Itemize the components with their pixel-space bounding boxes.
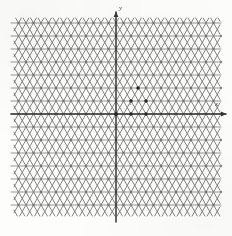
lattice-vertex xyxy=(190,35,192,37)
lattice-vertex xyxy=(182,48,184,50)
lattice-vertex xyxy=(137,100,139,102)
lattice-vertex xyxy=(107,100,109,102)
lattice-vertex xyxy=(70,87,72,89)
lattice-vertex xyxy=(17,126,19,128)
lattice-vertex xyxy=(152,22,154,24)
lattice-vertex xyxy=(17,152,19,154)
lattice-vertex xyxy=(85,165,87,167)
lattice-vertex xyxy=(17,204,19,206)
lattice-vertex xyxy=(137,22,139,24)
lattice-vertex xyxy=(40,165,42,167)
lattice-vertex xyxy=(85,61,87,63)
lattice-vertex xyxy=(62,126,64,128)
lattice-vertex xyxy=(137,48,139,50)
lattice-vertex xyxy=(137,74,139,76)
lattice-vertex xyxy=(32,100,34,102)
lattice-vertex xyxy=(17,74,19,76)
lattice-vertex xyxy=(197,152,199,154)
lattice-vertex xyxy=(55,165,57,167)
lattice-vertex xyxy=(100,191,102,193)
lattice-vertex xyxy=(205,87,207,89)
lattice-vertex xyxy=(190,87,192,89)
lattice-vertex xyxy=(70,191,72,193)
lattice-vertex xyxy=(47,100,49,102)
lattice-vertex xyxy=(122,74,124,76)
lattice-vertex xyxy=(167,152,169,154)
lattice-vertex xyxy=(182,178,184,180)
lattice-vertex xyxy=(85,191,87,193)
lattice-vertex xyxy=(47,22,49,24)
lattice-vertex xyxy=(182,204,184,206)
lattice-vertex xyxy=(62,178,64,180)
lattice-vertex xyxy=(100,61,102,63)
lattice-vertex xyxy=(32,48,34,50)
lattice-vertex xyxy=(55,191,57,193)
lattice-vertex xyxy=(77,178,79,180)
lattice-vertex xyxy=(167,22,169,24)
lattice-vertex xyxy=(212,204,214,206)
lattice-vertex xyxy=(122,204,124,206)
origin-point xyxy=(114,112,118,116)
lattice-vertex xyxy=(152,152,154,154)
lattice-vertex xyxy=(212,126,214,128)
lattice-vertex xyxy=(152,204,154,206)
lattice-vertex xyxy=(62,100,64,102)
lattice-vertex xyxy=(190,191,192,193)
lattice-vertex xyxy=(137,152,139,154)
lattice-vertex xyxy=(40,35,42,37)
lattice-vertex xyxy=(100,35,102,37)
lattice-vertex xyxy=(40,61,42,63)
lattice-vertex xyxy=(62,152,64,154)
lattice-vertex xyxy=(220,35,222,37)
lattice-vertex xyxy=(152,126,154,128)
lattice-vertex xyxy=(122,22,124,24)
lattice-vertex xyxy=(182,152,184,154)
lattice-vertex xyxy=(167,74,169,76)
lattice-vertex xyxy=(100,165,102,167)
lattice-vertex xyxy=(25,61,27,63)
lattice-vertex xyxy=(137,178,139,180)
lattice-vertex xyxy=(130,165,132,167)
lattice-vertex xyxy=(145,87,147,89)
lattice-vertex xyxy=(167,204,169,206)
lattice-vertex xyxy=(220,61,222,63)
lattice-vertex xyxy=(47,74,49,76)
lattice-vertex xyxy=(70,35,72,37)
lattice-vertex xyxy=(85,139,87,141)
lattice-vertex xyxy=(182,22,184,24)
lattice-vertex xyxy=(122,178,124,180)
lattice-vertex xyxy=(32,126,34,128)
lattice-vertex xyxy=(175,139,177,141)
lattice-vertex xyxy=(190,139,192,141)
unit-tick-label: 1 xyxy=(129,100,132,107)
lattice-vertex xyxy=(107,178,109,180)
y-axis-label: y xyxy=(119,5,122,12)
lattice-vertex xyxy=(212,74,214,76)
lattice-vertex xyxy=(32,178,34,180)
lattice-vertex xyxy=(212,178,214,180)
lattice-vertex xyxy=(85,87,87,89)
lattice-vertex xyxy=(160,139,162,141)
lattice-vertex xyxy=(100,87,102,89)
lattice-vertex xyxy=(212,48,214,50)
lattice-vertex xyxy=(55,61,57,63)
lattice-vertex xyxy=(205,61,207,63)
lattice-vertex xyxy=(145,61,147,63)
lattice-vertex xyxy=(70,139,72,141)
lattice-vertex xyxy=(205,165,207,167)
lattice-vertex xyxy=(17,178,19,180)
lattice-vertex xyxy=(92,48,94,50)
lattice-vertex xyxy=(25,139,27,141)
lattice-vertex xyxy=(220,87,222,89)
lattice-vertex xyxy=(107,74,109,76)
lattice-vertex xyxy=(160,87,162,89)
lattice-vertex xyxy=(122,48,124,50)
lattice-vertex xyxy=(197,126,199,128)
lattice-vertex xyxy=(47,152,49,154)
lattice-vertex xyxy=(92,204,94,206)
lattice-vertex xyxy=(182,100,184,102)
lattice-vertex xyxy=(40,139,42,141)
lattice-canvas xyxy=(0,0,232,236)
lattice-vertex xyxy=(197,204,199,206)
lattice-vertex xyxy=(32,204,34,206)
